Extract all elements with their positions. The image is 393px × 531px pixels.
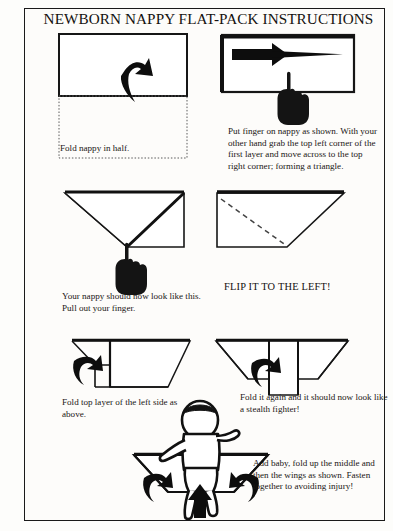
step-5-figure — [62, 337, 207, 399]
step-4-figure — [213, 187, 353, 267]
fold-left-arrow-icon — [73, 355, 103, 385]
step-7-caption: Add baby, fold up the middle and then th… — [253, 458, 378, 493]
step-2-caption: Put finger on nappy as shown. With your … — [228, 126, 380, 172]
step-3-caption: Your nappy should now look like this. Pu… — [62, 291, 207, 314]
pointing-hand-icon — [116, 243, 148, 295]
step-4-caption: FLIP IT TO THE LEFT! — [224, 281, 331, 292]
step-6-figure — [212, 337, 357, 399]
step-2-figure — [215, 32, 365, 132]
instruction-sheet: NEWBORN NAPPY FLAT-PACK INSTRUCTIONS Fol… — [0, 0, 393, 531]
step-1-caption: Fold nappy in half. — [60, 143, 190, 155]
page-title: NEWBORN NAPPY FLAT-PACK INSTRUCTIONS — [24, 10, 393, 28]
step-3-figure — [62, 187, 202, 302]
step-1-figure — [57, 32, 202, 142]
left-wing-arrow-icon — [143, 472, 173, 502]
